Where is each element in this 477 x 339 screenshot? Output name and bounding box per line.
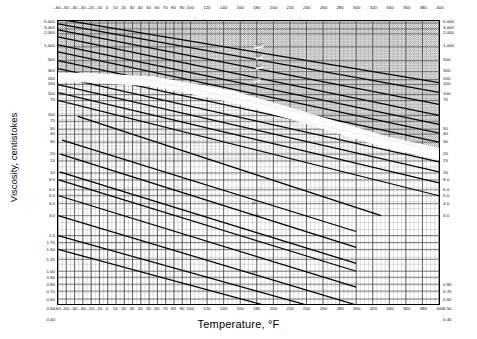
y-tick-label: 0.90 — [46, 276, 55, 280]
x-tick-label: 320 — [370, 307, 377, 311]
y-tick-label: 150 — [443, 82, 450, 86]
y-tick-label: 0.60 — [46, 298, 55, 302]
y-tick-label: 100 — [48, 92, 55, 96]
x-tick-label: 40 — [138, 307, 143, 311]
y-tick-label: 30 — [50, 140, 55, 144]
x-tick-label: 60 — [154, 6, 159, 10]
x-tick-label: 360 — [403, 307, 410, 311]
x-tick-label: 140 — [220, 307, 227, 311]
x-tick-label: –20 — [87, 6, 94, 10]
x-tick-label: 340 — [386, 6, 393, 10]
x-tick-label: –60 — [53, 6, 60, 10]
y-tick-label: 2,000 — [443, 31, 454, 35]
y-tick-label: 5,000 — [443, 20, 454, 24]
y-tick-label: 5.0 — [443, 194, 449, 198]
x-tick-label: 240 — [303, 6, 310, 10]
y-tick-label: 4.0 — [443, 202, 449, 206]
y-tick-label: 2,000 — [44, 31, 55, 35]
x-tick-label: 400 — [436, 6, 443, 10]
x-tick-label: 380 — [420, 307, 427, 311]
y-tick-label: 4.0 — [49, 202, 55, 206]
x-tick-label: 0 — [106, 307, 108, 311]
y-tick-label: 8.0 — [49, 178, 55, 182]
y-tick-label: 40 — [443, 132, 448, 136]
x-tick-label: 280 — [336, 307, 343, 311]
x-tick-label: 220 — [286, 307, 293, 311]
y-tick-label: 0.80 — [46, 283, 55, 287]
x-tick-label: 80 — [171, 307, 176, 311]
y-tick-label: 10 — [50, 171, 55, 175]
y-tick-label: 100 — [48, 113, 55, 117]
x-tick-label: –40 — [70, 307, 77, 311]
x-tick-label: 180 — [253, 6, 260, 10]
x-tick-label: 40 — [138, 6, 143, 10]
y-tick-label: 5.0 — [49, 194, 55, 198]
y-tick-label: 150 — [48, 82, 55, 86]
x-tick-label: 120 — [203, 6, 210, 10]
x-tick-label: 360 — [403, 6, 410, 10]
plot-canvas — [58, 21, 439, 304]
x-tick-label: 20 — [121, 307, 126, 311]
x-tick-label: 220 — [286, 6, 293, 10]
y-tick-label: 3.0 — [49, 214, 55, 218]
y-axis-title: Viscosity, centistokes — [8, 63, 19, 253]
y-tick-label: 30 — [443, 140, 448, 144]
y-tick-label: 20 — [443, 152, 448, 156]
y-tick-label: 75 — [50, 119, 55, 123]
y-tick-label: 6.0 — [49, 188, 55, 192]
x-tick-label: 380 — [420, 6, 427, 10]
x-axis-title: Temperature, °F — [0, 318, 477, 330]
x-tick-label: 10 — [113, 6, 118, 10]
y-tick-label: 300 — [48, 69, 55, 73]
x-tick-label: 70 — [163, 307, 168, 311]
y-tick-label: 500 — [48, 58, 55, 62]
grid-horizontal-minor — [58, 21, 439, 299]
y-tick-label: 0.70 — [46, 290, 55, 294]
x-tick-label: –30 — [78, 307, 85, 311]
x-axis-bottom-ticks: –60–50–40–30–20–100102030405060708090100… — [57, 307, 440, 317]
y-tick-label: 6.0 — [443, 188, 449, 192]
y-tick-label: 2.0 — [49, 234, 55, 238]
x-tick-label: 50 — [146, 307, 151, 311]
y-tick-label: 1.25 — [46, 258, 55, 262]
x-tick-label: –10 — [95, 307, 102, 311]
viscosity-grade-line — [60, 154, 356, 247]
x-tick-label: –50 — [62, 6, 69, 10]
x-tick-label: 0 — [106, 6, 108, 10]
y-tick-label: 500 — [443, 58, 450, 62]
y-axis-left-ticks: 5,0003,0002,0001,00050030020015010075100… — [22, 20, 55, 305]
y-tick-label: 3.0 — [443, 214, 449, 218]
x-tick-label: 300 — [353, 307, 360, 311]
x-tick-label: –50 — [62, 307, 69, 311]
y-tick-label: 0.50 — [443, 307, 452, 311]
x-tick-label: 60 — [154, 307, 159, 311]
y-tick-label: 1,000 — [44, 44, 55, 48]
x-tick-label: 120 — [203, 307, 210, 311]
y-tick-label: 1,000 — [443, 44, 454, 48]
y-tick-label: 0.70 — [443, 290, 452, 294]
x-axis-top-ticks: –60–50–40–30–20–100102030405060708090100… — [57, 4, 440, 14]
x-tick-label: 260 — [320, 307, 327, 311]
y-tick-label: 5,000 — [44, 20, 55, 24]
x-tick-label: 100 — [187, 6, 194, 10]
y-tick-label: 8.0 — [443, 178, 449, 182]
x-tick-label: 300 — [353, 6, 360, 10]
x-tick-label: 80 — [171, 6, 176, 10]
x-tick-label: –40 — [70, 6, 77, 10]
y-tick-label: 100 — [443, 92, 450, 96]
x-tick-label: 50 — [146, 6, 151, 10]
x-tick-label: 140 — [220, 6, 227, 10]
x-tick-label: 100 — [187, 307, 194, 311]
x-tick-label: 30 — [129, 6, 134, 10]
y-tick-label: 1.75 — [46, 241, 55, 245]
y-tick-label: 75 — [443, 98, 448, 102]
x-tick-label: 20 — [121, 6, 126, 10]
y-tick-label: 15 — [50, 159, 55, 163]
x-tick-label: 90 — [179, 307, 184, 311]
x-tick-label: 280 — [336, 6, 343, 10]
y-tick-label: 75 — [50, 98, 55, 102]
viscosity-temperature-chart: 1000680460320151070.85 5,0003,0002,0001,… — [0, 0, 477, 339]
x-tick-label: 200 — [270, 307, 277, 311]
curve-label: 7 — [252, 239, 256, 243]
x-tick-label: 10 — [113, 307, 118, 311]
